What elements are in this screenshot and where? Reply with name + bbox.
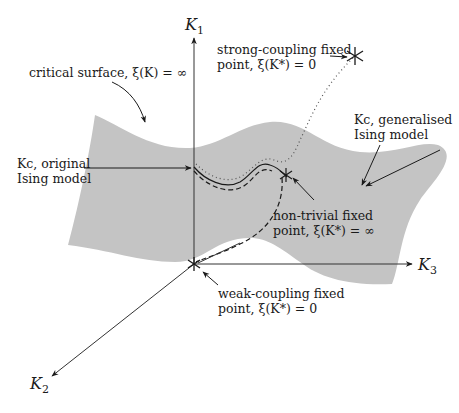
kc-generalised-label-line1: Kc, generalised (354, 112, 452, 127)
k2-axis-label: K2 (30, 374, 49, 396)
k3-axis-label: K3 (418, 255, 437, 277)
kc-original-label-line2: Ising model (17, 171, 91, 186)
kc-original-label-line1: Kc, original (17, 156, 90, 171)
nontrivial-label-line2: point, ξ(K*) = ∞ (273, 223, 375, 238)
weak-coupling-pointer (203, 272, 218, 285)
weak-coupling-label-line2: point, ξ(K*) = 0 (218, 301, 317, 316)
rg-flow-diagram: K1 K3 K2 critical surface, ξ(K) = ∞ stro… (0, 0, 459, 413)
nontrivial-label-line1: non-trivial fixed (273, 208, 373, 223)
k2-axis (52, 264, 194, 376)
critical-surface-pointer (112, 82, 145, 122)
k1-axis-label: K1 (185, 15, 204, 37)
weak-coupling-label-line1: weak-coupling fixed (218, 286, 345, 301)
kc-generalised-label-line2: Ising model (354, 127, 428, 142)
critical-surface-label: critical surface, ξ(K) = ∞ (29, 65, 187, 80)
strong-coupling-label-line1: strong-coupling fixed (217, 42, 352, 57)
strong-coupling-label-line2: point, ξ(K*) = 0 (217, 57, 316, 72)
